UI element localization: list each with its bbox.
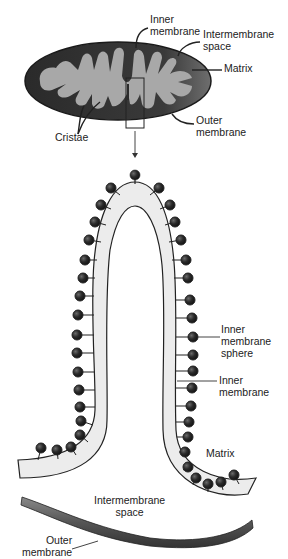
label-outer-membrane-bottom: Outer membrane: [22, 534, 72, 558]
label-inner-membrane-bottom: Inner membrane: [219, 374, 269, 398]
label-intermembrane-space-top: Intermembrane space: [203, 28, 274, 52]
label-matrix-top: Matrix: [224, 62, 253, 74]
label-matrix-bottom: Matrix: [206, 447, 235, 459]
inner-membrane-sphere-top: [130, 170, 140, 180]
mitochondrion: [25, 42, 211, 158]
label-cristae: Cristae: [55, 131, 88, 143]
label-intermembrane-space-bottom: Intermembrane space: [94, 494, 165, 518]
label-inner-membrane-top: Inner membrane: [150, 13, 200, 37]
label-outer-membrane-top: Outer membrane: [196, 114, 246, 138]
label-inner-membrane-sphere: Inner membrane sphere: [221, 323, 271, 359]
mitochondrion-diagram: [0, 0, 288, 559]
